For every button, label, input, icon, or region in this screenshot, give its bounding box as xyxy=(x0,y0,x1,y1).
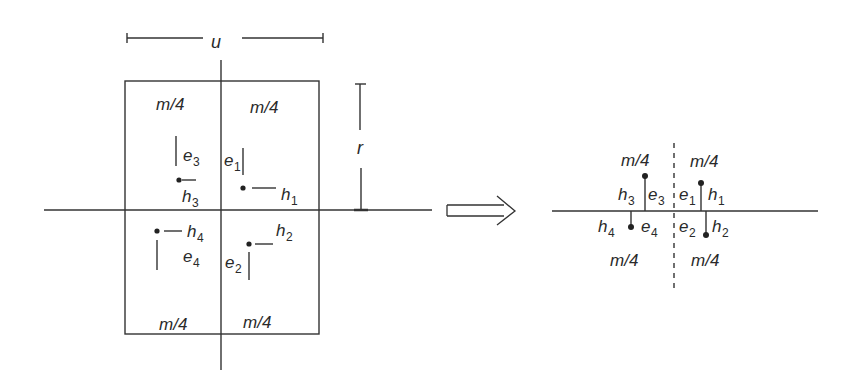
right-point-4-dot xyxy=(628,224,634,230)
right-e2-label: e 2 xyxy=(679,217,696,240)
svg-text:h: h xyxy=(618,185,627,204)
svg-text:e: e xyxy=(641,217,650,236)
right-h1-label: h 1 xyxy=(708,185,725,208)
left-h1-label: h 1 xyxy=(281,185,298,208)
svg-text:4: 4 xyxy=(197,231,204,245)
left-e4-label: e 4 xyxy=(183,247,200,270)
left-h3-label: h 3 xyxy=(182,187,199,210)
svg-text:e: e xyxy=(679,217,688,236)
right-quadrant-label-bottom-right: m/4 xyxy=(691,251,719,270)
svg-text:3: 3 xyxy=(193,155,200,169)
right-e4-label: e 4 xyxy=(641,217,658,240)
diagram-canvas: u r m/4 m/4 m/4 m/4 e 3 h 3 e 1 h 1 h 4 … xyxy=(0,0,860,387)
left-e2-label: e 2 xyxy=(225,253,242,276)
left-e1-label: e 1 xyxy=(224,151,241,174)
svg-text:2: 2 xyxy=(722,226,729,240)
implies-arrow-icon xyxy=(447,196,515,225)
svg-text:2: 2 xyxy=(235,262,242,276)
right-point-1-dot xyxy=(698,180,704,186)
svg-text:2: 2 xyxy=(689,226,696,240)
svg-text:e: e xyxy=(679,185,688,204)
quadrant-label-top-right: m/4 xyxy=(250,98,278,117)
svg-text:4: 4 xyxy=(651,226,658,240)
quadrant-label-bottom-right: m/4 xyxy=(243,313,271,332)
svg-text:e: e xyxy=(225,253,234,272)
svg-text:e: e xyxy=(224,151,233,170)
svg-text:3: 3 xyxy=(192,196,199,210)
svg-text:h: h xyxy=(712,217,721,236)
svg-text:1: 1 xyxy=(291,194,298,208)
right-e1-label: e 1 xyxy=(679,185,696,208)
right-quadrant-label-top-left: m/4 xyxy=(621,151,649,170)
right-h2-label: h 2 xyxy=(712,217,729,240)
left-h2-label: h 2 xyxy=(276,221,293,244)
r-label: r xyxy=(357,138,364,158)
left-h4-label: h 4 xyxy=(187,222,204,245)
left-e3-label: e 3 xyxy=(183,146,200,169)
right-h3-label: h 3 xyxy=(618,185,635,208)
region-rectangle xyxy=(125,81,319,334)
right-e3-label: e 3 xyxy=(648,185,665,208)
quadrant-label-top-left: m/4 xyxy=(156,95,184,114)
svg-text:1: 1 xyxy=(234,160,241,174)
quadrant-label-bottom-left: m/4 xyxy=(159,315,187,334)
svg-text:3: 3 xyxy=(658,194,665,208)
right-point-2-dot xyxy=(703,232,709,238)
u-label: u xyxy=(211,32,221,52)
svg-text:1: 1 xyxy=(689,194,696,208)
svg-text:h: h xyxy=(598,217,607,236)
svg-text:h: h xyxy=(276,221,285,240)
point-4-dot xyxy=(154,228,159,233)
right-quadrant-label-bottom-left: m/4 xyxy=(610,251,638,270)
svg-text:2: 2 xyxy=(286,230,293,244)
svg-text:e: e xyxy=(183,247,192,266)
point-2-dot xyxy=(246,241,251,246)
u-dimension xyxy=(127,33,323,43)
svg-text:4: 4 xyxy=(193,256,200,270)
svg-text:h: h xyxy=(708,185,717,204)
svg-text:e: e xyxy=(648,185,657,204)
svg-text:h: h xyxy=(182,187,191,206)
right-h4-label: h 4 xyxy=(598,217,615,240)
svg-text:h: h xyxy=(187,222,196,241)
svg-text:1: 1 xyxy=(718,194,725,208)
point-1-dot xyxy=(240,185,245,190)
svg-text:3: 3 xyxy=(628,194,635,208)
svg-text:h: h xyxy=(281,185,290,204)
right-point-3-dot xyxy=(642,173,648,179)
svg-text:4: 4 xyxy=(608,226,615,240)
point-3-dot xyxy=(176,177,181,182)
right-quadrant-label-top-right: m/4 xyxy=(690,152,718,171)
svg-text:e: e xyxy=(183,146,192,165)
